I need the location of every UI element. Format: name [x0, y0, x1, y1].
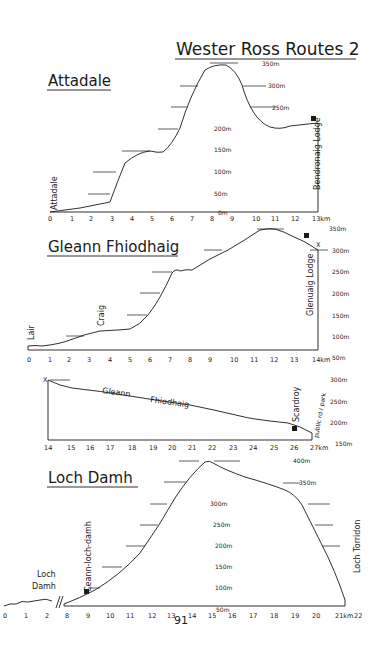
svg-text:7: 7: [168, 356, 172, 364]
svg-text:0: 0: [27, 356, 31, 364]
elevation-labels: 400m 350m 300m 250m 200m 150m 100m 50m: [210, 457, 316, 613]
place-craig: Craig: [97, 305, 106, 326]
svg-text:26: 26: [290, 444, 298, 452]
svg-text:24: 24: [249, 444, 257, 452]
svg-text:400m: 400m: [293, 457, 310, 464]
page-title: Wester Ross Routes 2: [176, 39, 360, 59]
svg-text:100m: 100m: [214, 168, 231, 175]
svg-text:12: 12: [291, 215, 299, 223]
svg-text:8: 8: [210, 215, 214, 223]
page-number: 91: [174, 614, 188, 627]
svg-text:18: 18: [128, 444, 136, 452]
route-elevation-diagram: Wester Ross Routes 2 Attadale 350m 300m …: [0, 0, 380, 657]
svg-text:250m: 250m: [213, 521, 230, 528]
elevation-labels: 350m 300m 250m 200m 150m 100m 50m: [329, 225, 349, 361]
svg-text:350m: 350m: [262, 60, 279, 67]
place-glenuaig-lodge: Glenuaig Lodge: [306, 253, 315, 316]
svg-text:19: 19: [291, 612, 299, 620]
svg-text:6: 6: [170, 215, 174, 223]
svg-text:14: 14: [188, 612, 196, 620]
svg-text:250m: 250m: [330, 398, 347, 405]
svg-text:4: 4: [130, 215, 134, 223]
svg-text:19: 19: [149, 444, 157, 452]
svg-text:25: 25: [270, 444, 278, 452]
svg-text:9: 9: [86, 612, 90, 620]
elevation-guides: [88, 63, 276, 194]
route-start-marker: X: [43, 376, 48, 384]
svg-text:300m: 300m: [268, 82, 285, 89]
svg-text:3: 3: [110, 215, 114, 223]
svg-text:27km: 27km: [310, 444, 328, 452]
svg-text:5: 5: [150, 215, 154, 223]
svg-text:3: 3: [87, 356, 91, 364]
svg-text:1: 1: [24, 612, 28, 620]
svg-text:100m: 100m: [332, 333, 349, 340]
svg-text:50m: 50m: [332, 354, 346, 361]
svg-text:11: 11: [271, 215, 279, 223]
svg-text:8: 8: [65, 612, 69, 620]
section-title-gleann-fhiodhaig: Gleann Fhiodhaig: [48, 238, 179, 256]
elevation-labels: 300m 250m 200m 150m: [330, 376, 352, 447]
place-scardroy: Scardroy: [292, 386, 301, 422]
elevation-labels: 350m 300m 250m 200m 150m 100m 50m 0m: [214, 60, 289, 216]
svg-text:10: 10: [252, 215, 260, 223]
svg-text:21km: 21km: [335, 612, 353, 620]
place-lair: Lair: [27, 324, 36, 340]
svg-text:250m: 250m: [332, 268, 349, 275]
svg-text:200m: 200m: [214, 125, 231, 132]
place-attadale: Attadale: [50, 176, 59, 210]
profile-gleann-fhiodhaig-continued: X Gleann Fhiodhaig 300m 250m 200m 150m 1…: [43, 376, 352, 452]
section-title-attadale: Attadale: [48, 72, 111, 90]
svg-text:2: 2: [67, 356, 71, 364]
svg-text:17: 17: [249, 612, 257, 620]
svg-text:18: 18: [270, 612, 278, 620]
place-ceann-loch-damh: Ceann-loch-damh: [84, 521, 93, 592]
place-loch: Loch: [37, 570, 56, 579]
svg-text:16: 16: [86, 444, 94, 452]
building-marker-icon: [292, 426, 297, 431]
svg-text:14: 14: [44, 444, 52, 452]
svg-text:13: 13: [290, 356, 298, 364]
svg-text:9: 9: [208, 356, 212, 364]
svg-text:10: 10: [106, 612, 114, 620]
svg-text:350m: 350m: [299, 479, 316, 486]
route-label-gleann: Gleann: [102, 386, 131, 399]
svg-text:50m: 50m: [214, 190, 228, 197]
elevation-profile-fill: [48, 380, 312, 440]
svg-text:21: 21: [188, 444, 196, 452]
svg-text:12: 12: [270, 356, 278, 364]
route-continues-marker: X: [316, 241, 321, 249]
route-label-fhiodhaig: Fhiodhaig: [150, 395, 190, 409]
svg-text:300m: 300m: [332, 247, 349, 254]
svg-text:14km: 14km: [312, 356, 330, 364]
svg-text:20: 20: [168, 444, 176, 452]
building-marker-icon: [84, 589, 89, 594]
svg-text:15: 15: [67, 444, 75, 452]
place-bendronaig-lodge: Bendronaig Lodge: [313, 117, 322, 190]
place-public-road-park: public rd / park: [312, 392, 328, 439]
svg-text:16: 16: [228, 612, 236, 620]
svg-text:200m: 200m: [330, 419, 347, 426]
svg-text:300m: 300m: [330, 376, 347, 383]
building-marker-icon: [304, 233, 309, 238]
svg-text:10: 10: [230, 356, 238, 364]
section-title-loch-damh: Loch Damh: [48, 469, 133, 487]
svg-text:200m: 200m: [215, 542, 232, 549]
svg-text:12: 12: [148, 612, 156, 620]
place-damh: Damh: [32, 582, 56, 591]
svg-text:2: 2: [45, 612, 49, 620]
svg-text:0m: 0m: [218, 209, 228, 216]
svg-text:7: 7: [190, 215, 194, 223]
svg-text:150m: 150m: [335, 440, 352, 447]
svg-text:23: 23: [229, 444, 237, 452]
svg-text:9: 9: [230, 215, 234, 223]
svg-text:8: 8: [188, 356, 192, 364]
svg-text:0: 0: [48, 215, 52, 223]
svg-text:200m: 200m: [332, 290, 349, 297]
x-axis-ticks: 14 15 16 17 18 19 20 21 22 23 24 25 26 2…: [44, 444, 328, 452]
svg-text:17: 17: [106, 444, 114, 452]
svg-text:300m: 300m: [210, 500, 227, 507]
svg-text:1: 1: [48, 356, 52, 364]
svg-text:1: 1: [70, 215, 74, 223]
profile-attadale: Attadale 350m 300m 250m 200m 150m 100m 5…: [47, 60, 330, 223]
